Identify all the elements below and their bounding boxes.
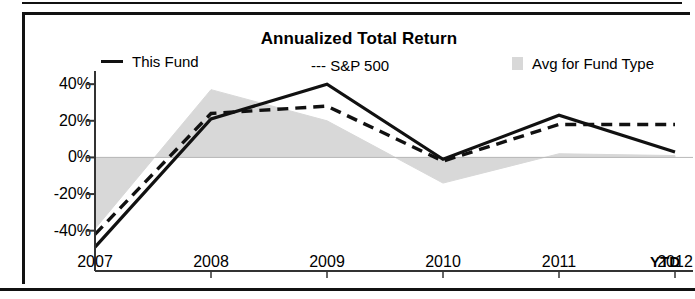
chart-panel: Annualized Total Return This Fund --- S&… [22, 12, 690, 284]
bottom-divider-rule [0, 288, 695, 291]
x-tick-label: 2008 [193, 253, 229, 271]
x-tick-label: 2011 [542, 253, 576, 271]
plot-area: 40% 20% 0% -20% -40% 2007 2008 2009 2010… [25, 71, 693, 287]
area-fill-swatch [512, 57, 523, 70]
top-divider-rule [22, 2, 682, 4]
chart-panel-root: Annualized Total Return This Fund --- S&… [0, 0, 695, 299]
legend-item-avg-for-fund-type: Avg for Fund Type [512, 55, 654, 72]
legend-label-avg-for-fund-type: Avg for Fund Type [532, 55, 654, 72]
legend-label-this-fund: This Fund [132, 53, 199, 70]
solid-line-swatch [101, 60, 123, 63]
x-axis-labels: 2007 2008 2009 2010 2011 2012 YTD [25, 71, 693, 287]
x-tick-label: 2007 [77, 253, 113, 271]
x-tick-label: 2009 [309, 253, 345, 271]
legend-item-this-fund: This Fund [101, 53, 199, 70]
chart-title: Annualized Total Return [25, 29, 693, 49]
x-axis-ytd-label: YTD [650, 253, 680, 270]
x-tick-label: 2010 [425, 253, 461, 271]
